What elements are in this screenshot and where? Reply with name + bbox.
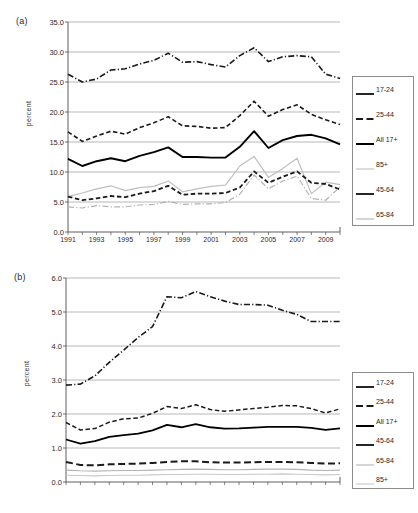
legend-item[interactable]: 45-64 [356,184,394,196]
panel-b-y-ticks: 0.01.02.03.04.05.06.0 [24,258,62,513]
legend-label: 45-64 [376,185,394,195]
x-tick-label: 2009 [318,236,334,243]
figure-panel-b: (b) percent 0.01.02.03.04.05.06.0 199119… [0,258,418,513]
x-tick-label: 2005 [261,236,277,243]
figure-panel-a: (a) percent 0.05.010.015.020.025.030.035… [0,0,418,258]
x-tick-label: 1999 [175,236,191,243]
y-tick-label: 25.0 [30,78,64,87]
legend-item[interactable]: 65-84 [356,455,394,467]
legend-label: 25-44 [376,397,394,407]
legend-swatch-icon [356,436,374,446]
series-line-all-17 [68,131,340,166]
legend-swatch-icon [356,185,374,195]
legend-swatch-icon [356,417,374,427]
legend-swatch-icon [356,456,374,466]
legend-item[interactable]: 17-24 [356,377,394,389]
y-tick-label: 4.0 [28,342,62,351]
legend-label: 45-64 [376,436,394,446]
legend-swatch-icon [356,475,374,485]
panel-a-y-ticks: 0.05.010.015.020.025.030.035.0 [26,0,64,258]
series-line-85 [68,156,340,196]
y-tick-label: 30.0 [30,48,64,57]
legend-swatch-icon [356,85,374,95]
legend-label: 65-84 [376,210,394,220]
legend-label: 85+ [376,475,388,485]
x-tick-label: 2001 [203,236,219,243]
y-tick-label: 10.0 [30,168,64,177]
y-tick-label: 20.0 [30,108,64,117]
legend-label: All 17+ [376,135,398,145]
x-tick-label: 1995 [117,236,133,243]
panel-a-legend: 17-2425-44All 17+85+45-6465-84 [352,76,414,226]
legend-item[interactable]: All 17+ [356,134,398,146]
x-tick-label: 1997 [146,236,162,243]
legend-item[interactable]: 25-44 [356,396,394,408]
y-tick-label: 35.0 [30,18,64,27]
y-tick-label: 5.0 [30,198,64,207]
series-line-65-84 [68,175,340,208]
legend-swatch-icon [356,110,374,120]
legend-item[interactable]: 25-44 [356,109,394,121]
panel-a-plot: 0.05.010.015.020.025.030.035.0 199119931… [0,0,350,258]
y-tick-label: 3.0 [28,376,62,385]
y-tick-label: 1.0 [28,444,62,453]
legend-label: 85+ [376,160,388,170]
legend-label: 17-24 [376,85,394,95]
y-tick-label: 15.0 [30,138,64,147]
y-tick-label: 2.0 [28,410,62,419]
legend-item[interactable]: 65-84 [356,209,394,221]
x-tick-label: 1993 [89,236,105,243]
legend-swatch-icon [356,135,374,145]
panel-b-legend: 17-2425-44All 17+45-6465-8485+ [352,372,414,489]
x-tick-label: 2003 [232,236,248,243]
legend-item[interactable]: 85+ [356,159,388,171]
y-tick-label: 6.0 [28,274,62,283]
x-tick-label: 1991 [60,236,76,243]
panel-b-plot: 0.01.02.03.04.05.06.0 199119931995199719… [0,258,350,513]
series-line-25-44 [66,292,340,386]
legend-item[interactable]: All 17+ [356,416,398,428]
series-line-all-17 [66,424,340,443]
legend-label: All 17+ [376,417,398,427]
series-line-65-84 [66,469,340,471]
legend-item[interactable]: 85+ [356,474,388,486]
series-line-45-64 [66,461,340,465]
series-line-85 [66,474,340,476]
legend-item[interactable]: 17-24 [356,84,394,96]
x-tick-label: 2007 [289,236,305,243]
legend-swatch-icon [356,210,374,220]
legend-swatch-icon [356,160,374,170]
y-tick-label: 5.0 [28,308,62,317]
legend-swatch-icon [356,378,374,388]
legend-label: 17-24 [376,378,394,388]
legend-label: 25-44 [376,110,394,120]
legend-swatch-icon [356,397,374,407]
legend-label: 65-84 [376,456,394,466]
series-line-17-24 [68,48,340,82]
legend-item[interactable]: 45-64 [356,435,394,447]
y-tick-label: 0.0 [28,478,62,487]
panel-a-x-ticks: 1991199319951997199920012003200520072009 [0,236,350,250]
